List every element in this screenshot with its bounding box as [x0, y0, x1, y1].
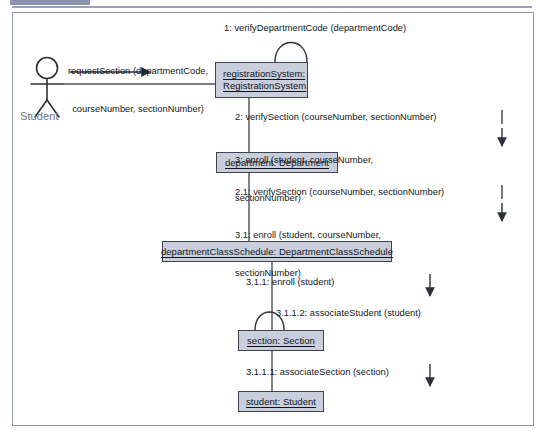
- object-student-label: student: Student: [246, 396, 316, 408]
- message-1: 1: verifyDepartmentCode (departmentCode): [224, 22, 406, 35]
- object-student[interactable]: student: Student: [238, 391, 324, 412]
- object-section-label: section: Section: [247, 335, 315, 347]
- message-request-section: requestSection (departmentCode, courseNu…: [68, 40, 208, 140]
- diagram-page: Student registrationSystem: Registration…: [0, 0, 546, 441]
- object-registration-system-label-line2: RegistrationSystem: [223, 80, 306, 92]
- page-header-bar: [10, 0, 90, 5]
- object-section[interactable]: section: Section: [238, 330, 324, 351]
- message-request-section-line1: requestSection (departmentCode,: [68, 65, 208, 78]
- message-3-1-1-2: 3.1.1.2: associateStudent (student): [276, 307, 421, 320]
- message-2-1: 2.1: verifySection (courseNumber, sectio…: [235, 186, 444, 199]
- message-3-1-line1: 3.1: enroll (student, courseNumber,: [235, 229, 381, 242]
- message-3-1-1: 3.1.1: enroll (student): [246, 276, 334, 289]
- message-2: 2: verifySection (courseNumber, sectionN…: [235, 111, 436, 124]
- object-registration-system[interactable]: registrationSystem: RegistrationSystem: [215, 62, 308, 98]
- actor-student-label: Student: [20, 110, 59, 122]
- message-request-section-line2: courseNumber, sectionNumber): [68, 103, 208, 116]
- page-header-rule: [12, 6, 532, 8]
- object-registration-system-label-line1: registrationSystem:: [223, 68, 305, 80]
- message-3-1: 3.1: enroll (student, courseNumber, sect…: [235, 204, 381, 304]
- message-3-line1: 3: enroll (student, courseNumber,: [235, 154, 373, 167]
- message-3-1-1-1: 3.1.1.1: associateSection (section): [246, 366, 389, 379]
